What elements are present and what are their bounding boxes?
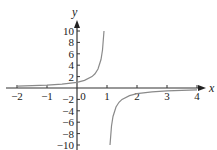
- x-tick-label: 3: [164, 90, 170, 102]
- x-tick-label: −2: [11, 90, 23, 102]
- curve-branch-right: [110, 90, 197, 145]
- y-tick-label: −8: [62, 128, 74, 140]
- y-tick-label: 10: [63, 25, 75, 37]
- x-tick-label: 4: [194, 90, 200, 102]
- x-tick-label: −1: [41, 90, 53, 102]
- x-axis-title: x: [208, 81, 215, 95]
- y-tick-label: −6: [62, 116, 74, 128]
- x-tick-label: 1: [104, 90, 110, 102]
- curve-branch-left: [17, 31, 104, 86]
- x-tick-label: 0: [80, 90, 86, 102]
- y-axis-title: y: [71, 5, 78, 19]
- y-tick-label: −10: [57, 139, 75, 150]
- y-tick-label: 4: [69, 59, 75, 71]
- y-tick-label: 2: [69, 71, 75, 83]
- chart: −2−101234−10−8−6−4−2246810 x y: [0, 0, 217, 150]
- y-tick-label: −2: [62, 93, 74, 105]
- x-tick-label: 2: [134, 90, 140, 102]
- y-tick-label: 6: [69, 48, 75, 60]
- y-tick-label: 8: [69, 36, 75, 48]
- y-tick-label: −4: [62, 105, 74, 117]
- y-axis-arrow: [74, 20, 80, 28]
